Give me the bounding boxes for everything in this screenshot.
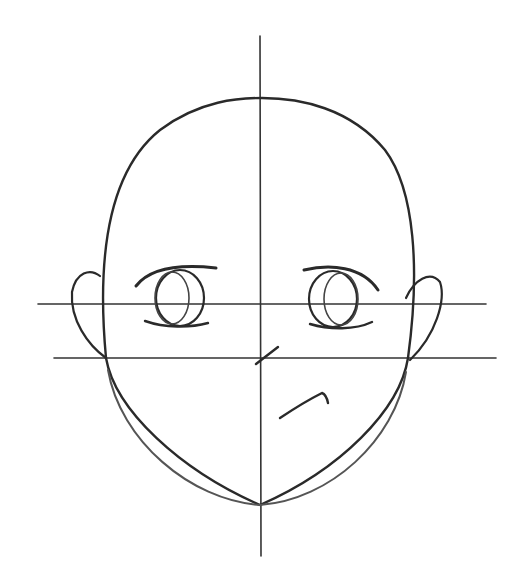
head: [103, 98, 414, 505]
right-eyelid-top: [304, 267, 378, 290]
nose-mark: [256, 347, 278, 364]
jaw-inner-line: [106, 358, 408, 505]
vertical-center-line: [260, 36, 261, 556]
construction-guides: [38, 36, 496, 556]
left-eye: [136, 267, 216, 327]
head-outline-upper: [103, 98, 414, 358]
right-eye: [304, 267, 378, 328]
mouth-mark: [280, 393, 328, 418]
sketch-canvas: [0, 0, 519, 578]
left-ear: [72, 272, 106, 358]
